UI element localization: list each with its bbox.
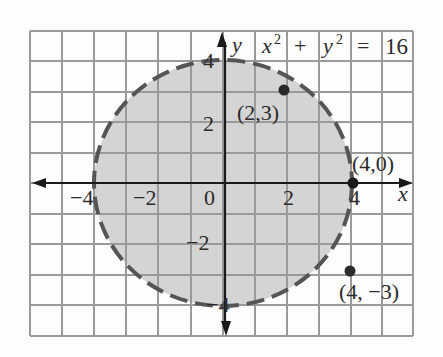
point-4-neg3 — [345, 266, 356, 277]
x-tick-neg2: −2 — [133, 185, 156, 210]
circle-graph-figure: x 2 + y 2 = 16 y x −4 −2 0 2 4 4 2 −2 −4… — [0, 0, 443, 357]
x-tick-2: 2 — [283, 185, 294, 210]
point-label-4-neg3: (4, −3) — [339, 279, 399, 304]
equation-plus: + — [294, 33, 306, 58]
y-tick-4: 4 — [203, 48, 214, 73]
equation-x-exponent: 2 — [274, 32, 281, 47]
point-4-0 — [348, 178, 359, 189]
point-label-2-3: (2,3) — [237, 100, 279, 125]
equation-equals: = — [357, 33, 369, 58]
point-label-4-0: (4,0) — [352, 151, 394, 176]
equation-y: y — [321, 33, 333, 58]
equation-label: x 2 + y 2 = 16 — [259, 32, 411, 59]
equation-y-exponent: 2 — [336, 32, 343, 47]
equation-rhs: 16 — [385, 34, 408, 59]
y-tick-neg4: −4 — [206, 292, 229, 317]
y-tick-2: 2 — [203, 111, 214, 136]
y-tick-neg2: −2 — [186, 230, 209, 255]
equation-x: x — [261, 33, 272, 58]
x-tick-0: 0 — [204, 185, 215, 210]
x-tick-4: 4 — [349, 185, 360, 210]
y-axis-label: y — [230, 32, 242, 57]
point-2-3 — [279, 85, 290, 96]
x-axis-label: x — [397, 181, 408, 206]
x-tick-neg4: −4 — [70, 185, 93, 210]
